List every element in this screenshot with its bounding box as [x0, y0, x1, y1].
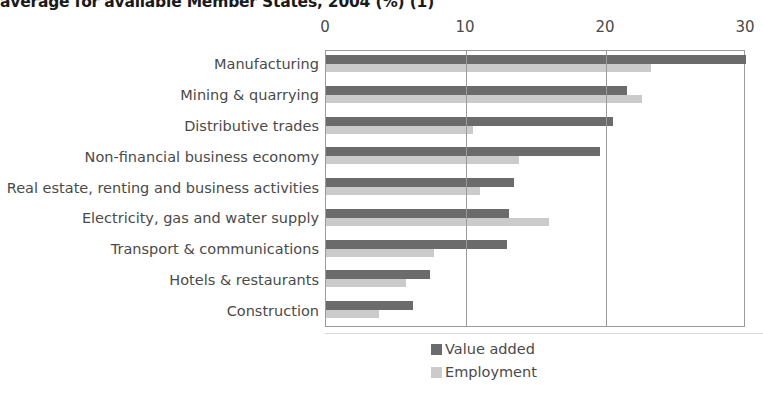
x-tick-label-10: 10 [455, 18, 474, 36]
plot-area [325, 50, 745, 327]
bar-rows [326, 51, 744, 326]
legend-label: Employment [445, 365, 537, 380]
bar-value-added [326, 178, 514, 187]
bar-chart: average for available Member States, 200… [0, 0, 763, 396]
bar-value-added [326, 86, 627, 95]
bar-employment [326, 156, 519, 164]
bar-row [326, 143, 744, 174]
bar-value-added [326, 147, 600, 156]
bar-row [326, 174, 744, 205]
x-tick-label-0: 0 [320, 18, 330, 36]
legend-label: Value added [445, 342, 535, 357]
category-label: Transport & communications [0, 241, 319, 257]
gridline-10 [466, 51, 467, 326]
bar-row [326, 297, 744, 328]
legend-item-value-added[interactable]: Value added [431, 338, 537, 361]
category-label: Hotels & restaurants [0, 272, 319, 288]
bar-value-added [326, 270, 430, 279]
bar-row [326, 82, 744, 113]
category-label: Non-financial business economy [0, 149, 319, 165]
chart-title: average for available Member States, 200… [0, 0, 600, 11]
bar-row [326, 266, 744, 297]
x-tick-label-20: 20 [595, 18, 614, 36]
gridline-20 [606, 51, 607, 326]
legend-swatch-icon [431, 344, 442, 355]
legend-swatch-icon [431, 367, 442, 378]
baseline-rule [325, 333, 763, 334]
bar-row [326, 51, 744, 82]
category-label: Real estate, renting and business activi… [0, 180, 319, 196]
chart-legend: Value addedEmployment [431, 338, 537, 384]
bar-employment [326, 64, 651, 72]
category-label: Mining & quarrying [0, 87, 319, 103]
x-axis-tick-labels: 0102030 [0, 18, 763, 38]
bar-employment [326, 187, 480, 195]
category-label: Construction [0, 303, 319, 319]
bar-employment [326, 218, 549, 226]
category-axis-labels: ManufacturingMining & quarryingDistribut… [0, 50, 319, 327]
bar-employment [326, 310, 379, 318]
bar-value-added [326, 117, 613, 126]
x-tick-label-30: 30 [735, 18, 754, 36]
bar-employment [326, 126, 473, 134]
bar-value-added [326, 240, 507, 249]
bar-row [326, 113, 744, 144]
bar-row [326, 205, 744, 236]
category-label: Electricity, gas and water supply [0, 210, 319, 226]
bar-employment [326, 249, 434, 257]
bar-row [326, 236, 744, 267]
bar-value-added [326, 55, 746, 64]
category-label: Distributive trades [0, 118, 319, 134]
bar-value-added [326, 301, 413, 310]
legend-item-employment[interactable]: Employment [431, 361, 537, 384]
category-label: Manufacturing [0, 56, 319, 72]
bar-value-added [326, 209, 509, 218]
bar-employment [326, 279, 406, 287]
bar-employment [326, 95, 642, 103]
